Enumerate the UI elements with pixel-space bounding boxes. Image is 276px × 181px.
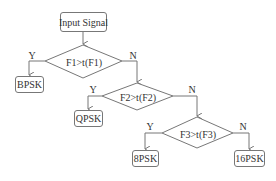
output-node-qpsk: QPSK	[74, 110, 103, 127]
output-node-16psk: 16PSK	[234, 150, 265, 167]
output-bpsk-label: BPSK	[17, 79, 42, 90]
decision-3-label: F3>t(F3)	[180, 129, 216, 140]
decision-1-no-label: N	[129, 50, 136, 61]
output-qpsk-label: QPSK	[76, 113, 102, 124]
decision-2-yes-label: Y	[89, 84, 96, 95]
decision-2-label: F2>t(F2)	[120, 92, 156, 103]
output-8psk-label: 8PSK	[134, 153, 157, 164]
output-node-bpsk: BPSK	[15, 76, 44, 93]
output-16psk-label: 16PSK	[235, 153, 263, 164]
start-node-input-signal: Input Signal	[60, 12, 107, 32]
decision-1-label: F1>t(F1)	[66, 57, 102, 68]
decision-3-no-label: N	[239, 121, 246, 132]
start-node-label: Input Signal	[59, 17, 108, 28]
decision-1-yes-label: Y	[28, 50, 35, 61]
decision-3-yes-label: Y	[146, 121, 153, 132]
decision-2-no-label: N	[188, 84, 195, 95]
output-node-8psk: 8PSK	[132, 150, 159, 167]
